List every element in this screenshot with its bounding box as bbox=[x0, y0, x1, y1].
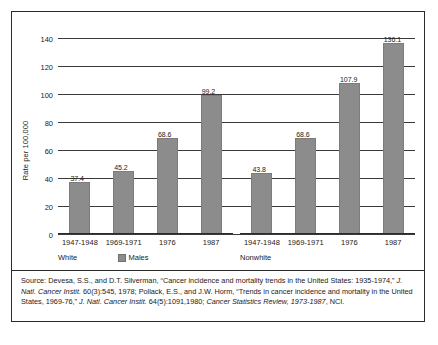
x-axis-white: 1947-19481969-197119761987 bbox=[58, 238, 233, 250]
bar-value-label: 136.1 bbox=[384, 36, 402, 43]
x-axis-tick-label: 1947-1948 bbox=[240, 238, 284, 250]
bar-value-label: 99.2 bbox=[202, 88, 216, 95]
group-nonwhite: Nonwhite bbox=[240, 253, 415, 265]
bar-slot: 37.4 bbox=[58, 38, 102, 234]
source-text-run: Source: Devesa, S.S., and D.T. Silverman… bbox=[21, 276, 397, 285]
bar[interactable]: 43.8 bbox=[251, 173, 272, 234]
panel-white: 37.445.268.699.2 bbox=[58, 38, 233, 234]
y-axis-tick-label: 120 bbox=[40, 63, 53, 72]
panel-nonwhite: 43.868.6107.9136.1 bbox=[240, 38, 415, 234]
source-text-run: , NCI. bbox=[326, 297, 345, 306]
bar-slot: 45.2 bbox=[102, 38, 146, 234]
bars-white: 37.445.268.699.2 bbox=[58, 38, 233, 234]
x-axis-tick-label: 1976 bbox=[146, 238, 190, 250]
x-axis-tick-label: 1987 bbox=[189, 238, 233, 250]
bars-nonwhite: 43.868.6107.9136.1 bbox=[240, 38, 415, 234]
y-axis-tick-label: 80 bbox=[45, 119, 53, 128]
x-axis-tick-label: 1969-1971 bbox=[284, 238, 328, 250]
x-axis-tick-label: 1969-1971 bbox=[102, 238, 146, 250]
baseline-white bbox=[58, 233, 233, 234]
bar[interactable]: 107.9 bbox=[339, 83, 360, 234]
bar-slot: 68.6 bbox=[146, 38, 190, 234]
source-italic-run: J. Natl. Cancer Instit. bbox=[79, 297, 147, 306]
x-axis-tick-label: 1976 bbox=[328, 238, 372, 250]
bar[interactable]: 136.1 bbox=[383, 43, 404, 234]
y-axis-tick-label: 20 bbox=[45, 203, 53, 212]
group-label-row: White Males Nonwhite bbox=[58, 253, 415, 265]
y-axis-tick-label: 100 bbox=[40, 91, 53, 100]
figure-frame: Rate per 100,000 140120100806040200 37.4… bbox=[11, 11, 425, 322]
y-axis-tick-label: 40 bbox=[45, 175, 53, 184]
baseline-nonwhite bbox=[240, 233, 415, 234]
bar-value-label: 45.2 bbox=[114, 164, 128, 171]
bar-slot: 107.9 bbox=[328, 38, 372, 234]
group-label-white: White bbox=[58, 253, 77, 262]
bar-panels: 37.445.268.699.2 43.868.6107.9136.1 bbox=[58, 38, 415, 234]
legend-swatch-icon bbox=[118, 254, 126, 262]
bar-value-label: 43.8 bbox=[252, 166, 266, 173]
bar[interactable]: 37.4 bbox=[69, 182, 90, 234]
y-axis-title: Rate per 100,000 bbox=[21, 91, 30, 211]
bar-value-label: 107.9 bbox=[340, 76, 358, 83]
y-axis-tick-label: 140 bbox=[40, 35, 53, 44]
source-citation: Source: Devesa, S.S., and D.T. Silverman… bbox=[21, 276, 415, 308]
bar-slot: 43.8 bbox=[240, 38, 284, 234]
x-axis-labels: 1947-19481969-197119761987 1947-19481969… bbox=[58, 238, 415, 250]
bar-value-label: 37.4 bbox=[70, 175, 84, 182]
y-axis-tick-label: 0 bbox=[49, 231, 53, 240]
bar-slot: 136.1 bbox=[371, 38, 415, 234]
bar[interactable]: 68.6 bbox=[157, 138, 178, 234]
chart-region: Rate per 100,000 140120100806040200 37.4… bbox=[12, 12, 424, 270]
gridline: 0 bbox=[58, 234, 415, 235]
bar-slot: 68.6 bbox=[284, 38, 328, 234]
legend-males: Males bbox=[118, 253, 149, 262]
bar-value-label: 68.6 bbox=[158, 131, 172, 138]
x-axis-nonwhite: 1947-19481969-197119761987 bbox=[240, 238, 415, 250]
source-text-run: 64(5):1091,1980; bbox=[147, 297, 207, 306]
bar-slot: 99.2 bbox=[189, 38, 233, 234]
source-divider bbox=[12, 270, 424, 271]
x-axis-tick-label: 1987 bbox=[371, 238, 415, 250]
source-italic-run: Cancer Statistics Review, 1973-1987 bbox=[206, 297, 325, 306]
plot-area: 140120100806040200 37.445.268.699.2 43.8… bbox=[58, 38, 415, 234]
group-label-nonwhite: Nonwhite bbox=[240, 253, 271, 262]
group-white: White Males bbox=[58, 253, 233, 265]
bar[interactable]: 45.2 bbox=[113, 171, 134, 234]
bar[interactable]: 68.6 bbox=[295, 138, 316, 234]
x-axis-tick-label: 1947-1948 bbox=[58, 238, 102, 250]
bar-value-label: 68.6 bbox=[296, 131, 310, 138]
y-axis-tick-label: 60 bbox=[45, 147, 53, 156]
legend-label-males: Males bbox=[129, 253, 149, 262]
bar[interactable]: 99.2 bbox=[201, 95, 222, 234]
